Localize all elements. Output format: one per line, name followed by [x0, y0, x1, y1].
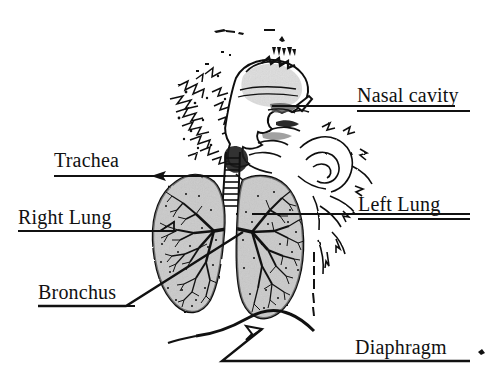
label-right-lung: Right Lung — [18, 207, 112, 227]
label-left-lung: Left Lung — [358, 194, 440, 214]
head-sagittal-section — [224, 57, 312, 186]
diaphragm — [168, 311, 314, 343]
respiratory-system-illustration — [0, 0, 495, 383]
right-lung — [150, 170, 232, 315]
label-diaphragm: Diaphragm — [355, 337, 447, 357]
label-nasal-cavity: Nasal cavity — [357, 85, 459, 105]
diagram-page: Nasal cavity Trachea Right Lung Left Lun… — [0, 0, 495, 383]
label-trachea: Trachea — [54, 150, 119, 170]
label-bronchus: Bronchus — [38, 282, 116, 302]
left-lung — [234, 170, 310, 322]
